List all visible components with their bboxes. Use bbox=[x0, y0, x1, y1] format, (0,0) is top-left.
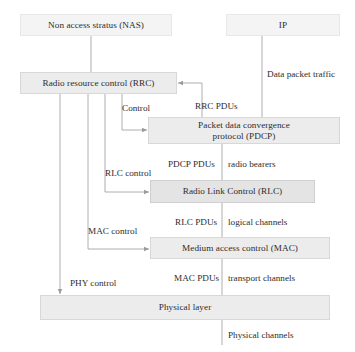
label-radio-bearers: radio bearers bbox=[228, 160, 276, 169]
node-rrc-label: Radio resource control (RRC) bbox=[43, 78, 155, 89]
label-transport-channels: transport channels bbox=[228, 274, 295, 283]
label-logical-channels: logical channels bbox=[228, 218, 287, 227]
label-rlc-pdus: RLC PDUs bbox=[175, 218, 217, 227]
node-physical-layer: Physical layer bbox=[40, 295, 330, 320]
label-mac-pdus: MAC PDUs bbox=[174, 274, 219, 283]
label-rrc-pdus: RRC PDUs bbox=[195, 102, 238, 111]
node-mac-label: Medium access control (MAC) bbox=[182, 243, 298, 254]
label-pdcp-pdus: PDCP PDUs bbox=[168, 160, 215, 169]
node-nas: Non access stratus (NAS) bbox=[20, 14, 172, 36]
node-rrc: Radio resource control (RRC) bbox=[20, 72, 177, 94]
node-nas-label: Non access stratus (NAS) bbox=[48, 20, 144, 31]
node-mac: Medium access control (MAC) bbox=[150, 237, 330, 259]
node-rlc: Radio Link Control (RLC) bbox=[150, 180, 315, 203]
node-rlc-label: Radio Link Control (RLC) bbox=[183, 186, 282, 197]
node-pdcp: Packet data convergence protocol (PDCP) bbox=[148, 117, 340, 144]
label-phy-control: PHY control bbox=[70, 279, 116, 288]
link-pdcp-to-rrc-pdus bbox=[178, 83, 202, 117]
label-data-packet-traffic: Data packet traffic bbox=[267, 70, 335, 79]
node-ip-label: IP bbox=[279, 20, 287, 31]
label-physical-channels: Physical channels bbox=[228, 331, 294, 340]
node-physical-layer-label: Physical layer bbox=[159, 302, 212, 313]
label-rlc-control: RLC control bbox=[105, 169, 151, 178]
node-ip: IP bbox=[226, 14, 340, 36]
node-pdcp-label: Packet data convergence protocol (PDCP) bbox=[198, 120, 290, 141]
protocol-stack-diagram: Non access stratus (NAS) IP Radio resour… bbox=[0, 0, 355, 352]
label-mac-control: MAC control bbox=[88, 227, 137, 236]
label-control: Control bbox=[122, 104, 150, 113]
